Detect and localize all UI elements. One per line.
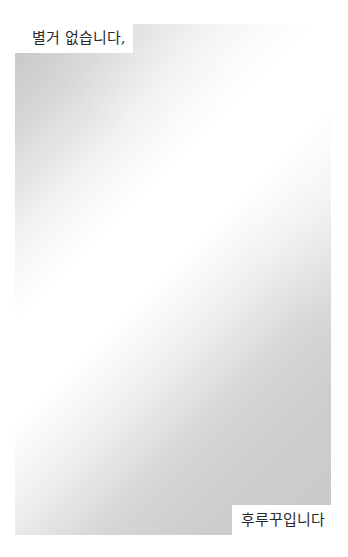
caption-bottom-text: 후루꾸입니다 [241, 513, 325, 528]
caption-top-box: 별거 없습니다, [0, 24, 133, 53]
caption-top-text: 별거 없습니다, [32, 31, 126, 46]
gradient-panel [15, 24, 331, 535]
page: 별거 없습니다, 후루꾸입니다 [0, 0, 348, 557]
caption-bottom-box: 후루꾸입니다 [232, 505, 348, 535]
